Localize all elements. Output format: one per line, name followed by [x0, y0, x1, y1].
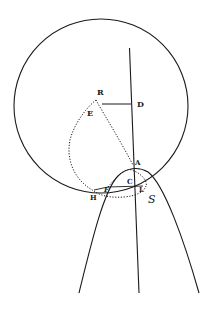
chord-hl: [94, 186, 143, 190]
label-h: H: [90, 193, 97, 202]
label-d: D: [137, 99, 144, 109]
label-f: F: [103, 185, 110, 194]
main-circle: [14, 19, 188, 193]
label-a: A: [134, 158, 141, 167]
label-c: C: [127, 177, 133, 186]
axis-line: [130, 48, 140, 293]
label-e: E: [87, 108, 93, 118]
geometry-figure: R D E A C F H L S: [0, 0, 212, 312]
label-s: S: [148, 193, 156, 206]
label-r: R: [97, 87, 104, 97]
dotted-segment-f: [108, 176, 118, 187]
diagram-canvas: R D E A C F H L S: [0, 0, 212, 312]
label-l: L: [139, 185, 144, 194]
dotted-curve: [69, 100, 133, 191]
